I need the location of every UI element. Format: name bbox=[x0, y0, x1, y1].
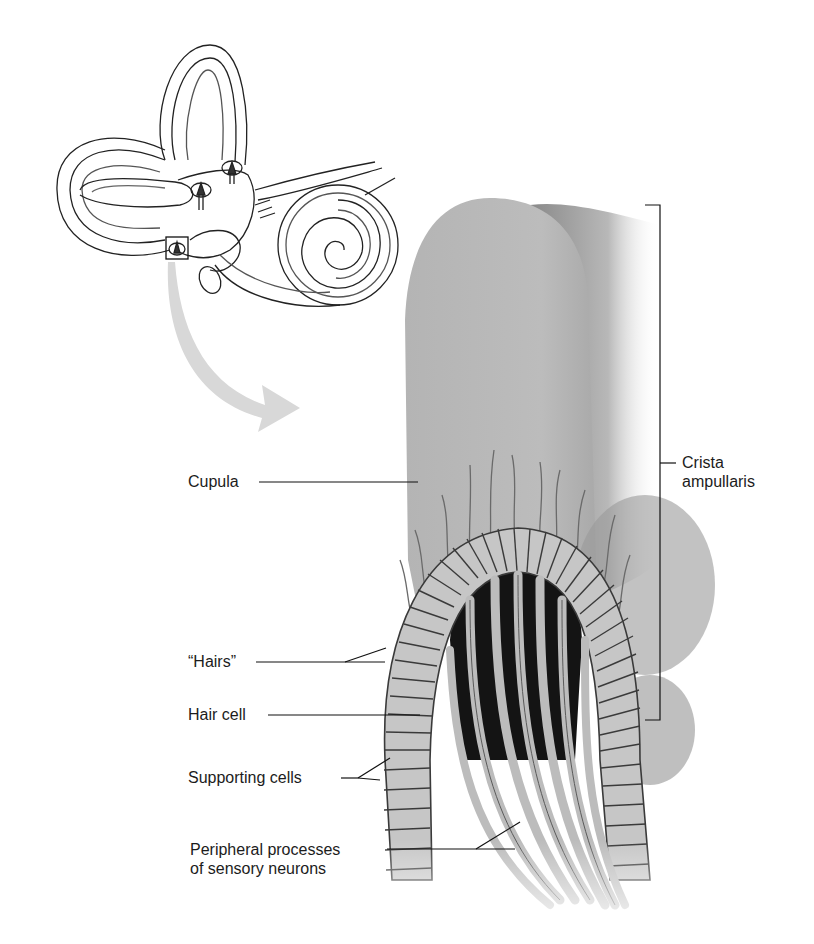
peripheral-processes-label: Peripheral processes of sensory neurons bbox=[190, 840, 340, 878]
hairs-label: “Hairs” bbox=[188, 652, 236, 671]
crista-ampullaris-label: Crista ampullaris bbox=[682, 453, 755, 491]
hair-cell-label: Hair cell bbox=[188, 705, 246, 724]
supporting-cells-label: Supporting cells bbox=[188, 768, 302, 787]
cupula-label: Cupula bbox=[188, 472, 239, 491]
peripheral-processes-line2: of sensory neurons bbox=[190, 859, 340, 878]
peripheral-processes-line1: Peripheral processes bbox=[190, 840, 340, 859]
inner-ear-inset bbox=[57, 45, 398, 306]
crista-ampullaris-line1: Crista bbox=[682, 453, 755, 472]
crista-ampullaris-line2: ampullaris bbox=[682, 472, 755, 491]
